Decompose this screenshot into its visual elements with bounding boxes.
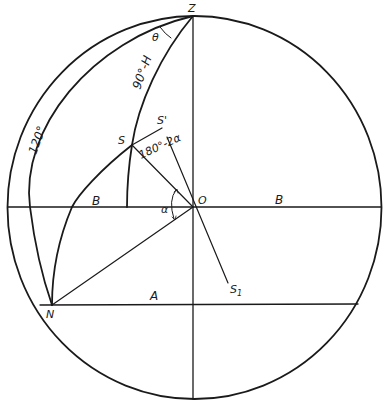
label-s-prime: S' bbox=[157, 114, 167, 127]
arc-sn bbox=[52, 145, 132, 305]
celestial-diagram: Z θ 90°-H 120° S S' 180°-2α B α O B A S1… bbox=[0, 0, 385, 403]
label-s1-sub: 1 bbox=[237, 289, 242, 298]
arc-zs bbox=[127, 16, 193, 207]
label-120: 120° bbox=[26, 124, 49, 156]
label-b-right: B bbox=[275, 193, 283, 207]
label-o: O bbox=[198, 194, 207, 207]
line-no bbox=[52, 207, 193, 305]
label-theta: θ bbox=[152, 31, 159, 44]
label-s: S bbox=[118, 134, 125, 147]
label-180-2a: 180°-2α bbox=[137, 131, 184, 162]
label-b-left: B bbox=[92, 194, 100, 208]
line-a bbox=[40, 304, 358, 305]
arc-zn bbox=[29, 16, 193, 305]
theta-arc bbox=[160, 27, 171, 38]
label-s1: S1 bbox=[230, 283, 242, 298]
label-z: Z bbox=[187, 2, 196, 15]
alpha-arc bbox=[171, 190, 176, 219]
label-s1-main: S bbox=[230, 283, 237, 296]
line-s-prime-s1 bbox=[167, 137, 228, 283]
label-n: N bbox=[46, 308, 54, 321]
label-a: A bbox=[149, 289, 158, 303]
label-alpha: α bbox=[161, 203, 169, 216]
